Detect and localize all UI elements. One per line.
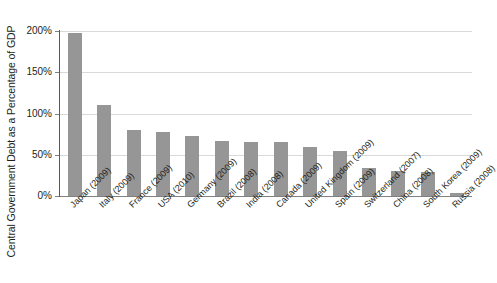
bar bbox=[303, 147, 317, 197]
gridline bbox=[60, 72, 472, 73]
bar bbox=[68, 33, 82, 196]
bar bbox=[391, 171, 405, 196]
bar bbox=[333, 151, 347, 196]
bar bbox=[274, 142, 288, 196]
y-tick-label: 200% bbox=[4, 26, 52, 36]
y-tick-mark bbox=[55, 114, 59, 115]
y-tick-label: 100% bbox=[4, 109, 52, 119]
gridline bbox=[60, 155, 472, 156]
bar bbox=[244, 142, 258, 196]
bar bbox=[127, 130, 141, 196]
y-axis-title: Central Government Debt as a Percentage … bbox=[0, 0, 22, 283]
y-tick-mark bbox=[55, 72, 59, 73]
y-tick-label: 0% bbox=[4, 191, 52, 201]
gridline bbox=[60, 114, 472, 115]
gridline bbox=[60, 31, 472, 32]
y-tick-mark bbox=[55, 31, 59, 32]
gridline bbox=[60, 196, 472, 197]
bar bbox=[215, 141, 229, 196]
y-tick-label: 150% bbox=[4, 67, 52, 77]
bar bbox=[450, 193, 464, 196]
bar bbox=[362, 168, 376, 196]
y-tick-label: 50% bbox=[4, 150, 52, 160]
bar bbox=[185, 136, 199, 196]
bar bbox=[421, 172, 435, 196]
y-tick-mark bbox=[55, 196, 59, 197]
bar bbox=[97, 105, 111, 196]
plot-area bbox=[60, 31, 472, 196]
bar bbox=[156, 132, 170, 196]
y-tick-mark bbox=[55, 155, 59, 156]
